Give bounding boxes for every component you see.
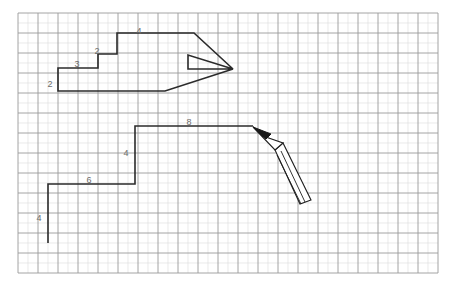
length-label-3-top: 3 bbox=[74, 59, 79, 69]
length-label-2-step: 2 bbox=[94, 46, 99, 56]
length-label-4-riser: 4 bbox=[123, 148, 128, 158]
drawing-canvas-stage: 23248464 bbox=[0, 0, 452, 288]
length-label-2-left: 2 bbox=[47, 79, 52, 89]
length-label-4-top: 4 bbox=[136, 26, 141, 36]
length-label-8-top: 8 bbox=[186, 117, 191, 127]
length-label-4-riser-lower: 4 bbox=[36, 213, 41, 223]
length-label-6-run: 6 bbox=[86, 175, 91, 185]
grid-drawing-svg: 23248464 bbox=[0, 0, 452, 288]
